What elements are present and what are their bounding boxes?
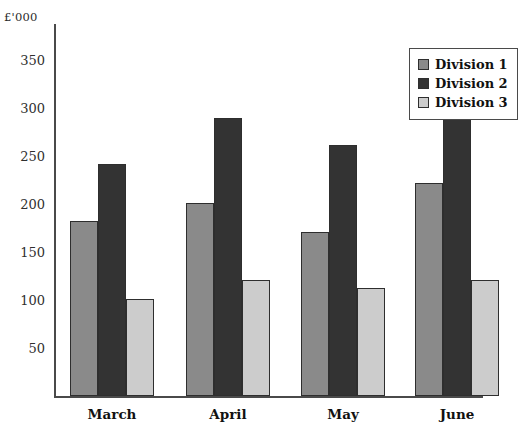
legend-item: Division 3 xyxy=(418,93,508,112)
y-axis-tick-350: 350 xyxy=(5,53,45,68)
bar-chart: £'000 50100150200250300350 MarchAprilMay… xyxy=(0,0,531,438)
bar xyxy=(126,299,154,396)
legend-swatch-icon xyxy=(418,97,429,108)
x-axis-label-june: June xyxy=(402,406,512,422)
bar xyxy=(70,221,98,396)
bar xyxy=(471,280,499,396)
bar xyxy=(98,164,126,396)
y-axis-tick-100: 100 xyxy=(5,293,45,308)
bar xyxy=(301,232,329,396)
bar xyxy=(443,106,471,396)
bar xyxy=(242,280,270,396)
y-axis-tick-300: 300 xyxy=(5,101,45,116)
legend: Division 1Division 2Division 3 xyxy=(409,48,518,120)
y-axis-unit-label: £'000 xyxy=(4,10,37,24)
bar-group xyxy=(301,24,385,396)
bar xyxy=(214,118,242,396)
legend-item-label: Division 1 xyxy=(435,57,508,72)
bar xyxy=(357,288,385,396)
bar xyxy=(329,145,357,396)
legend-item-label: Division 3 xyxy=(435,95,508,110)
y-axis-tick-150: 150 xyxy=(5,245,45,260)
legend-item: Division 2 xyxy=(418,74,508,93)
x-axis-label-may: May xyxy=(288,406,398,422)
bar xyxy=(186,203,214,396)
legend-item: Division 1 xyxy=(418,55,508,74)
y-axis-tick-250: 250 xyxy=(5,149,45,164)
y-axis-tick-200: 200 xyxy=(5,197,45,212)
x-axis-label-april: April xyxy=(173,406,283,422)
bar xyxy=(415,183,443,396)
legend-swatch-icon xyxy=(418,78,429,89)
y-axis-tick-50: 50 xyxy=(5,341,45,356)
x-axis-line xyxy=(54,396,483,398)
bar-group xyxy=(186,24,270,396)
legend-item-label: Division 2 xyxy=(435,76,508,91)
bar-group xyxy=(70,24,154,396)
x-axis-label-march: March xyxy=(57,406,167,422)
legend-swatch-icon xyxy=(418,59,429,70)
